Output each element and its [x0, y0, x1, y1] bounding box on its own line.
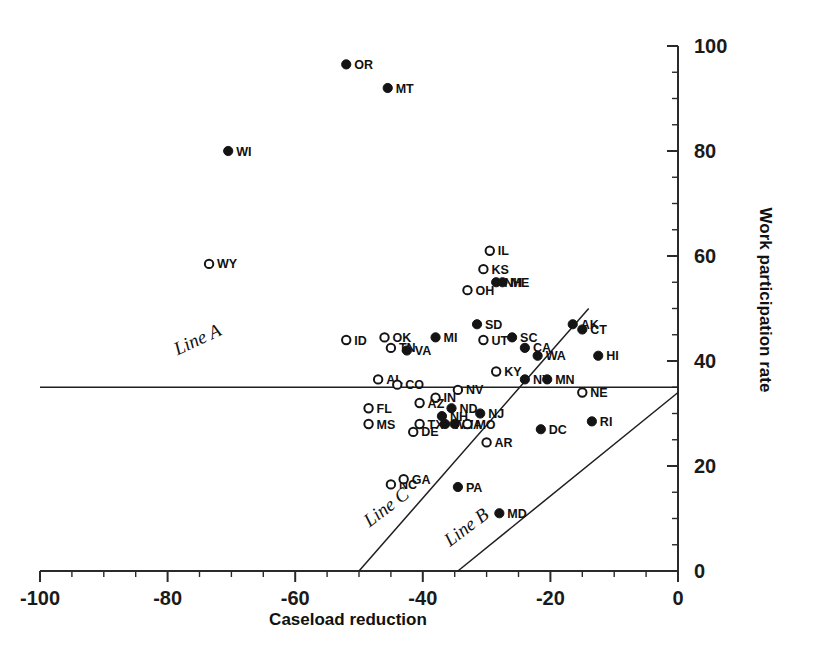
- point-label-MS: MS: [377, 418, 396, 432]
- point-label-AZ: AZ: [428, 397, 445, 411]
- point-label-ID: ID: [354, 334, 367, 348]
- x-axis-title: Caseload reduction: [269, 610, 427, 629]
- point-label-SD: SD: [485, 318, 502, 332]
- point-label-CT: CT: [590, 323, 607, 337]
- marker-filled-MI: [431, 333, 440, 342]
- point-label-DE: DE: [421, 425, 438, 439]
- x-tick-label: -80: [153, 587, 182, 609]
- marker-filled-MN: [543, 375, 552, 384]
- marker-open-MS: [364, 420, 372, 428]
- y-tick-label: 100: [694, 35, 727, 57]
- point-label-ME: ME: [511, 276, 530, 290]
- point-label-FL: FL: [377, 402, 393, 416]
- point-label-AR: AR: [495, 436, 513, 450]
- point-label-MT: MT: [396, 82, 414, 96]
- x-tick-label: -100: [20, 587, 60, 609]
- point-label-NV: NV: [466, 383, 484, 397]
- point-label-KY: KY: [504, 365, 522, 379]
- marker-open-AZ: [415, 399, 423, 407]
- point-label-KS: KS: [491, 263, 508, 277]
- point-label-NE: NE: [590, 386, 607, 400]
- marker-open-UT: [479, 336, 487, 344]
- point-label-RI: RI: [600, 415, 613, 429]
- point-label-VA: VA: [415, 344, 431, 358]
- marker-open-KY: [492, 367, 500, 375]
- marker-open-DE: [409, 428, 417, 436]
- marker-filled-NY: [520, 375, 529, 384]
- y-tick-label: 60: [694, 245, 716, 267]
- x-tick-label: -60: [281, 587, 310, 609]
- marker-open-KS: [479, 265, 487, 273]
- point-label-CO: CO: [405, 378, 424, 392]
- marker-open-WY: [205, 260, 213, 268]
- marker-open-ID: [342, 336, 350, 344]
- scatter-plot: -100-80-60-40-200020406080100 ORMTWIWYIL…: [0, 0, 816, 661]
- marker-filled-SD: [472, 320, 481, 329]
- point-label-MO: MO: [475, 418, 495, 432]
- y-tick-label: 20: [694, 455, 716, 477]
- marker-open-IL: [486, 247, 494, 255]
- point-label-IL: IL: [498, 244, 509, 258]
- marker-filled-MD: [495, 509, 504, 518]
- x-tick-label: -20: [536, 587, 565, 609]
- y-tick-label: 0: [694, 560, 705, 582]
- marker-open-OH: [463, 286, 471, 294]
- marker-open-TN: [387, 344, 395, 352]
- marker-open-FL: [364, 404, 372, 412]
- point-label-IN: IN: [444, 391, 457, 405]
- chart-canvas: -100-80-60-40-200020406080100 ORMTWIWYIL…: [0, 0, 816, 661]
- point-label-WA: WA: [546, 349, 566, 363]
- point-label-UT: UT: [491, 334, 508, 348]
- y-axis-title: Work participation rate: [756, 208, 775, 393]
- point-label-PA: PA: [466, 481, 482, 495]
- marker-filled-HI: [594, 351, 603, 360]
- marker-filled-MT: [383, 83, 392, 92]
- marker-filled-WV: [441, 419, 450, 428]
- point-label-WY: WY: [217, 257, 238, 271]
- point-label-MD: MD: [507, 507, 526, 521]
- y-tick-label: 80: [694, 140, 716, 162]
- marker-filled-CT: [578, 325, 587, 334]
- marker-open-CO: [393, 380, 401, 388]
- marker-filled-CA: [520, 343, 529, 352]
- marker-open-AL: [374, 375, 382, 383]
- marker-filled-AK: [568, 320, 577, 329]
- marker-open-MO: [463, 420, 471, 428]
- x-tick-label: 0: [672, 587, 683, 609]
- marker-filled-RI: [587, 417, 596, 426]
- marker-filled-WI: [224, 146, 233, 155]
- marker-open-GA: [399, 475, 407, 483]
- marker-filled-ME: [498, 278, 507, 287]
- point-label-MN: MN: [555, 373, 574, 387]
- point-label-DC: DC: [549, 423, 567, 437]
- x-tick-label: -40: [408, 587, 437, 609]
- marker-open-OK: [380, 333, 388, 341]
- marker-filled-OR: [342, 60, 351, 69]
- point-label-OH: OH: [475, 284, 494, 298]
- point-label-OR: OR: [354, 58, 373, 72]
- marker-filled-WA: [533, 351, 542, 360]
- marker-filled-VA: [402, 346, 411, 355]
- marker-filled-DC: [536, 425, 545, 434]
- marker-filled-SC: [508, 333, 517, 342]
- point-label-WI: WI: [236, 145, 251, 159]
- marker-open-AR: [482, 438, 490, 446]
- point-label-HI: HI: [606, 349, 619, 363]
- y-tick-label: 40: [694, 350, 716, 372]
- point-label-GA: GA: [412, 473, 431, 487]
- marker-filled-MA: [450, 419, 459, 428]
- marker-filled-PA: [453, 482, 462, 491]
- point-label-MI: MI: [444, 331, 458, 345]
- marker-open-NE: [578, 388, 586, 396]
